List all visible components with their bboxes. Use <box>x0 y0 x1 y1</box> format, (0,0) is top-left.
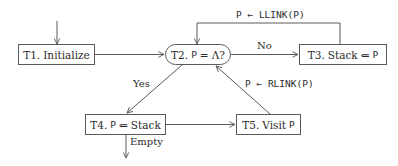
node-t5-visit: T5.VisitP <box>236 114 301 135</box>
node-t5-text: Visit <box>262 119 286 131</box>
node-t5-var: P <box>289 119 295 130</box>
node-t1-prefix: T1. <box>23 49 40 61</box>
node-t5-prefix: T5. <box>242 119 259 131</box>
node-t3-text: Stack <box>328 49 358 61</box>
edge-label-llink: P ← LLINK(P) <box>236 9 305 20</box>
node-t2-prefix: T2. <box>171 49 188 61</box>
node-t4-prefix: T4. <box>90 119 107 131</box>
node-t3-stack-push: T3.Stack⇐P <box>299 44 387 65</box>
node-t2-test: T2.P=Λ? <box>165 44 231 65</box>
edge-label-yes: Yes <box>133 78 150 89</box>
node-t1-initialize: T1.Initialize <box>18 44 95 65</box>
node-t2-var: P <box>191 49 197 60</box>
edges-layer <box>0 0 398 166</box>
node-t4-stack-pop: T4.P⇐Stack <box>85 114 166 135</box>
node-t4-op: ⇐ <box>119 119 128 131</box>
node-t3-prefix: T3. <box>308 49 325 61</box>
edge-label-rlink: P ← RLINK(P) <box>245 78 314 89</box>
edge-t5-t2-rlink <box>216 66 270 114</box>
edge-label-no: No <box>257 40 272 51</box>
node-t1-text: Initialize <box>43 49 90 61</box>
edge-t2-t4-yes <box>127 65 182 113</box>
node-t3-op: ⇐ <box>361 49 370 61</box>
flowchart-canvas: T1.Initialize T2.P=Λ? T3.Stack⇐P T4.P⇐St… <box>0 0 398 166</box>
node-t2-rhs: Λ? <box>212 49 225 61</box>
node-t4-text: Stack <box>131 119 161 131</box>
node-t4-var: P <box>110 119 116 130</box>
edge-label-empty: Empty <box>130 136 163 147</box>
node-t2-op: = <box>200 49 209 61</box>
node-t3-var: P <box>373 49 379 60</box>
